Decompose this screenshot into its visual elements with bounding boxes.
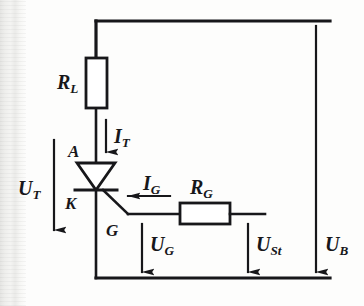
- label-voltage-u-b: UB: [325, 234, 348, 257]
- label-gate-resistor: RG: [190, 177, 213, 200]
- label-node-anode: A: [68, 143, 79, 160]
- thyristor-gate-diagonal-lead: [103, 190, 128, 214]
- label-voltage-u-st: USt: [256, 234, 281, 257]
- label-current-i-g: IG: [143, 173, 160, 196]
- label-voltage-u-g: UG: [150, 234, 174, 257]
- thyristor-triangle: [77, 163, 115, 190]
- circuit-schematic-canvas: [0, 0, 364, 306]
- circuit-diagram-figure: RL RG IT IG UT UG USt UB A K G: [0, 0, 364, 306]
- gate-resistor-body: [180, 203, 230, 224]
- label-voltage-u-t: UT: [18, 178, 41, 201]
- label-current-i-t: IT: [114, 126, 130, 149]
- label-node-gate: G: [106, 222, 118, 239]
- label-load-resistor: RL: [57, 72, 78, 95]
- load-resistor-body: [86, 58, 107, 108]
- label-node-cathode: K: [65, 195, 76, 212]
